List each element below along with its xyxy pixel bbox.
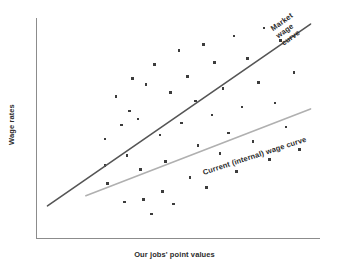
scatter-point (298, 148, 301, 151)
scatter-point (180, 122, 183, 125)
x-axis-label: Our jobs' point values (0, 250, 349, 259)
scatter-point (227, 132, 230, 135)
scatter-point (178, 49, 181, 52)
scatter-point (142, 198, 145, 201)
plot-area (0, 0, 349, 270)
scatter-point (194, 100, 197, 103)
scatter-point (153, 63, 156, 66)
scatter-point (213, 61, 216, 64)
scatter-point (128, 110, 131, 113)
scatter-point (104, 138, 107, 141)
scatter-point (161, 190, 164, 193)
scatter-point (205, 186, 208, 189)
y-axis-label: Wage rates (7, 95, 16, 155)
scatter-point (252, 140, 255, 143)
scatter-point (123, 201, 126, 204)
scatter-point (131, 77, 134, 80)
scatter-point (197, 144, 200, 147)
scatter-point (241, 106, 244, 109)
scatter-point (268, 158, 271, 161)
scatter-point (164, 160, 167, 163)
scatter-point (169, 91, 172, 94)
scatter-point (189, 176, 192, 179)
scatter-point (145, 83, 148, 86)
scatter-point (202, 43, 205, 46)
scatter-point (246, 57, 249, 60)
scatter-point (257, 81, 260, 84)
scatter-point (233, 35, 236, 38)
scatter-point (211, 114, 214, 117)
scatter-point (172, 203, 175, 206)
scatter-point (293, 71, 296, 74)
scatter-point (137, 118, 140, 121)
scatter-point (263, 27, 266, 30)
scatter-point (150, 213, 153, 216)
scatter-point (222, 87, 225, 90)
wage-curve-chart: Wage rates Our jobs' point values Market… (0, 0, 349, 270)
scatter-point (126, 154, 129, 157)
scatter-point (106, 182, 109, 185)
scatter-point (235, 170, 238, 173)
scatter-point (219, 152, 222, 155)
scatter-point (186, 75, 189, 78)
scatter-point (139, 168, 142, 171)
scatter-markers (104, 27, 301, 215)
scatter-point (285, 126, 288, 129)
scatter-point (159, 134, 162, 137)
scatter-point (274, 102, 277, 105)
scatter-point (120, 124, 123, 127)
scatter-point (115, 95, 118, 98)
